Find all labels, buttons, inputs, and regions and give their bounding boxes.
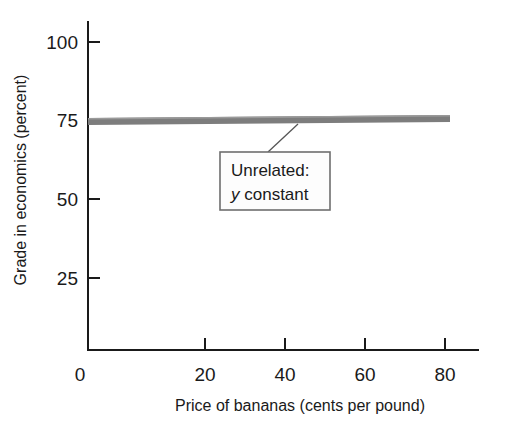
x-tick-label-80: 80 — [434, 364, 455, 385]
data-series-group — [88, 116, 450, 122]
callout-line-1: Unrelated: — [231, 161, 309, 180]
x-tick-marks — [205, 338, 445, 350]
y-tick-label-100: 100 — [46, 32, 78, 53]
y-tick-label-75: 75 — [57, 110, 78, 131]
y-tick-label-25: 25 — [57, 268, 78, 289]
callout-leader-line — [268, 124, 298, 152]
callout-line-2: y constant — [230, 185, 309, 204]
x-tick-label-40: 40 — [274, 364, 295, 385]
y-tick-labels: 100 75 50 25 — [46, 32, 78, 289]
x-axis-title: Price of bananas (cents per pound) — [175, 397, 425, 414]
y-tick-marks — [88, 42, 100, 278]
y-axis-title: Grade in economics (percent) — [12, 75, 29, 286]
chart-canvas: 100 75 50 25 0 20 40 60 80 Unr — [0, 0, 505, 427]
x-tick-labels: 0 20 40 60 80 — [75, 364, 456, 385]
x-origin-label: 0 — [75, 364, 86, 385]
x-tick-label-60: 60 — [354, 364, 375, 385]
x-tick-label-20: 20 — [194, 364, 215, 385]
y-tick-label-50: 50 — [57, 189, 78, 210]
chart-figure: 100 75 50 25 0 20 40 60 80 Unr — [0, 0, 505, 427]
callout-line-2-rest: constant — [240, 185, 309, 204]
